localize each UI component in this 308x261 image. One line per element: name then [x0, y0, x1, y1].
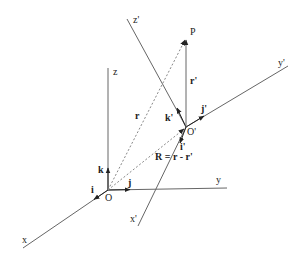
frames-diagram: z y x O k j i z' y' x' O' k' j' i' P r r… [0, 0, 308, 261]
origin-o-prime-label: O' [187, 126, 196, 137]
j-unit-label: j [127, 177, 131, 188]
x-prime-axis [138, 127, 186, 226]
z-axis-label: z [113, 66, 118, 77]
i-unit-label: i [91, 184, 94, 195]
k-prime-unit-label: k' [165, 112, 174, 123]
R-vector-label: R = r - r' [155, 151, 193, 162]
j-prime-unit-label: j' [200, 103, 207, 114]
x-axis-label: x [22, 234, 27, 245]
r-vector-label: r [135, 110, 140, 121]
origin-o-label: O [105, 192, 112, 203]
point-p-label: P [190, 26, 196, 37]
y-prime-axis-label: y' [278, 57, 285, 68]
z-prime-axis-label: z' [133, 14, 139, 25]
r-prime-vector-label: r' [190, 75, 197, 86]
diagram-canvas: z y x O k j i z' y' x' O' k' j' i' P r r… [0, 0, 308, 261]
k-unit-label: k [98, 164, 104, 175]
x-prime-axis-label: x' [130, 213, 137, 224]
r-vector [108, 40, 185, 190]
y-axis-label: y [216, 174, 221, 185]
k-prime-unit-vector [177, 108, 186, 127]
